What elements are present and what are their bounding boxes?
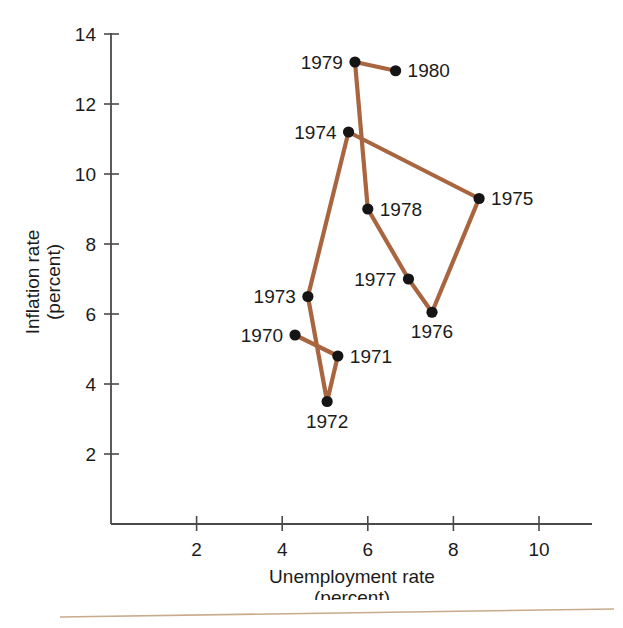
data-point-label: 1970: [241, 325, 283, 346]
x-tick-label: 6: [363, 539, 374, 560]
x-axis-title: Unemployment rate (percent): [269, 566, 435, 600]
y-tick-label: 14: [75, 24, 97, 45]
y-axis-title: Inflation rate (percent): [22, 230, 64, 335]
data-point[interactable]: [403, 273, 414, 284]
x-axis-title-sub: (percent): [314, 587, 390, 600]
data-point[interactable]: [289, 329, 300, 340]
bottom-divider-rule: [0, 600, 623, 628]
y-axis-title-sub: (percent): [43, 244, 64, 320]
chart-page: 2468101214 246810 1970197119721973197419…: [0, 0, 623, 628]
data-point[interactable]: [349, 56, 360, 67]
x-axis-title-main: Unemployment rate: [269, 566, 435, 587]
data-point-label: 1978: [380, 199, 422, 220]
data-point-label: 1974: [294, 122, 337, 143]
data-point-label: 1972: [306, 411, 348, 432]
x-tick-label: 8: [448, 539, 459, 560]
data-point-label: 1977: [354, 269, 396, 290]
y-axis-title-main: Inflation rate: [22, 230, 43, 335]
y-axis-ticks: 2468101214: [75, 24, 119, 465]
x-tick-label: 4: [277, 539, 288, 560]
data-point-label: 1975: [491, 188, 533, 209]
data-point-label: 1979: [301, 52, 343, 73]
data-point-label: 1976: [411, 321, 453, 342]
data-point[interactable]: [390, 65, 401, 76]
data-point[interactable]: [302, 291, 313, 302]
data-series-layer: 1970197119721973197419751976197719781979…: [241, 52, 534, 432]
data-point[interactable]: [362, 203, 373, 214]
data-point[interactable]: [332, 350, 343, 361]
x-tick-label: 2: [191, 539, 202, 560]
data-point-label: 1980: [408, 60, 450, 81]
phillips-curve-chart: 2468101214 246810 1970197119721973197419…: [0, 0, 623, 600]
y-tick-label: 4: [85, 374, 96, 395]
y-tick-label: 10: [75, 164, 96, 185]
divider-line: [60, 609, 614, 617]
data-point[interactable]: [322, 396, 333, 407]
data-point-label: 1971: [350, 346, 392, 367]
x-tick-label: 10: [528, 539, 549, 560]
data-point[interactable]: [426, 307, 437, 318]
y-tick-label: 8: [85, 234, 96, 255]
y-tick-label: 12: [75, 94, 96, 115]
data-point-label: 1973: [254, 286, 296, 307]
x-axis-ticks: 246810: [191, 516, 549, 560]
data-point[interactable]: [343, 126, 354, 137]
y-tick-label: 2: [85, 444, 96, 465]
data-point[interactable]: [473, 193, 484, 204]
y-tick-label: 6: [85, 304, 96, 325]
axes: [111, 33, 592, 524]
